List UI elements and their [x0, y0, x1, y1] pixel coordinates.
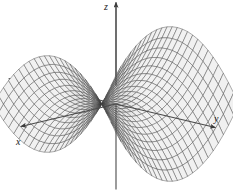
axis-label-z: z	[104, 2, 108, 12]
surface-plot-canvas	[0, 0, 233, 190]
surface-plot-figure: z x y	[0, 0, 233, 190]
axis-label-x: x	[16, 137, 20, 147]
axis-label-y: y	[214, 114, 218, 124]
